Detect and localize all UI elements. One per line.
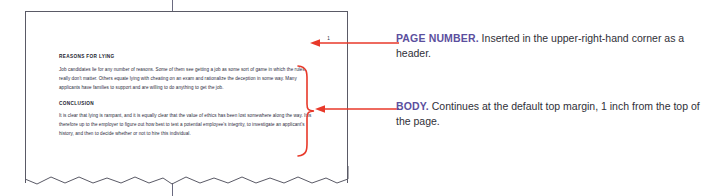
- section-paragraph-reasons-for-lying: Job candidates lie for any number of rea…: [59, 66, 312, 93]
- document-page: 1 REASONS FOR LYING Job candidates lie f…: [25, 11, 348, 183]
- callout-page-number: PAGE NUMBER. Inserted in the upper-right…: [396, 31, 714, 61]
- torn-page-edge-icon: [25, 166, 349, 188]
- section-heading-conclusion: CONCLUSION: [59, 101, 312, 107]
- document-body: REASONS FOR LYING Job candidates lie for…: [59, 54, 312, 139]
- callout-body-text: Continues at the default top margin, 1 i…: [396, 100, 700, 127]
- callout-page-number-label: PAGE NUMBER.: [396, 32, 479, 44]
- callout-body: BODY. Continues at the default top margi…: [396, 99, 714, 129]
- callout-body-label: BODY.: [396, 100, 429, 112]
- section-paragraph-conclusion: It is clear that lying is rampant, and i…: [59, 112, 312, 139]
- annotated-document-figure: 1 REASONS FOR LYING Job candidates lie f…: [0, 0, 726, 196]
- section-heading-reasons-for-lying: REASONS FOR LYING: [59, 54, 312, 60]
- page-number: 1: [327, 37, 330, 42]
